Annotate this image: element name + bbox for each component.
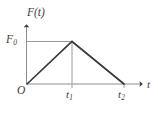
- x-axis-label: t: [147, 79, 150, 90]
- origin-label: O: [17, 85, 25, 97]
- force-time-diagram: F(t) F0 O t1 t2 t: [0, 0, 158, 113]
- t2-tick-label: t2: [118, 89, 125, 102]
- y-axis-label: F(t): [27, 7, 45, 19]
- t1-tick-label: t1: [66, 89, 73, 102]
- force-pulse-curve: [27, 42, 124, 85]
- f0-level-label: F0: [6, 34, 17, 46]
